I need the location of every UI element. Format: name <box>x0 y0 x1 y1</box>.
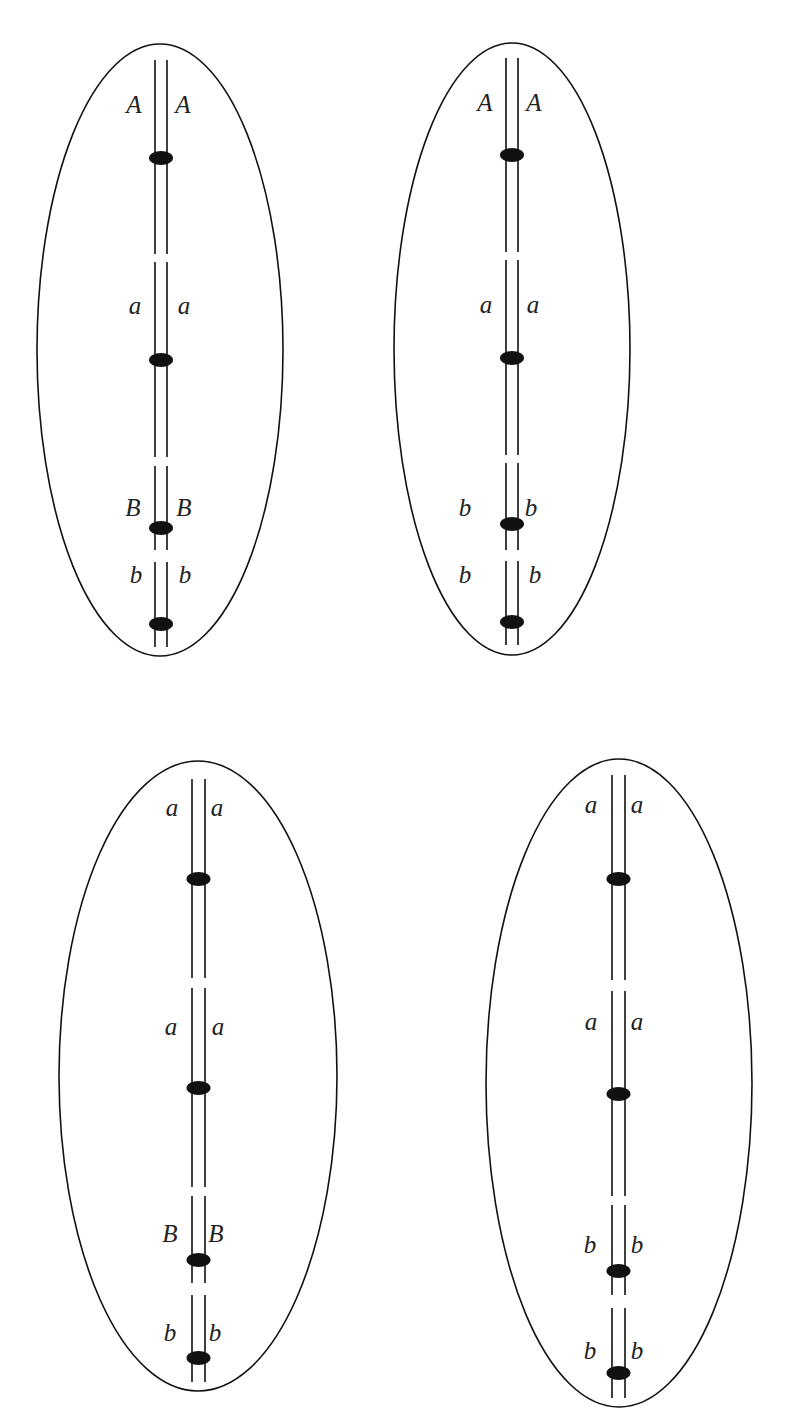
allele-label-left: b <box>584 1337 597 1364</box>
allele-label-right: A <box>524 89 542 116</box>
cell-membrane <box>37 44 283 656</box>
allele-label-right: b <box>529 561 542 588</box>
cell-membrane <box>59 761 337 1391</box>
allele-label-right: a <box>527 291 540 318</box>
allele-label-right: a <box>211 794 224 821</box>
allele-label-right: a <box>212 1013 225 1040</box>
centromere-dot <box>500 615 524 629</box>
allele-label-left: b <box>130 561 143 588</box>
allele-label-left: a <box>166 794 179 821</box>
centromere-dot <box>187 872 211 886</box>
allele-label-left: b <box>584 1231 597 1258</box>
allele-label-left: B <box>162 1220 177 1247</box>
allele-label-left: a <box>585 791 598 818</box>
centromere-dot <box>607 872 631 886</box>
cell-top-left: AAaaBBbb <box>37 44 283 656</box>
allele-label-right: A <box>173 91 191 118</box>
allele-label-left: B <box>125 494 140 521</box>
centromere-dot <box>187 1253 211 1267</box>
allele-label-right: a <box>631 791 644 818</box>
cell-membrane <box>486 759 752 1407</box>
centromere-dot <box>500 148 524 162</box>
centromere-dot <box>149 617 173 631</box>
allele-label-right: a <box>178 292 191 319</box>
centromere-dot <box>500 351 524 365</box>
allele-label-right: B <box>176 494 191 521</box>
cell-top-right: AAaabbbb <box>394 43 630 655</box>
centromere-dot <box>607 1264 631 1278</box>
allele-label-left: a <box>585 1008 598 1035</box>
allele-label-right: b <box>631 1337 644 1364</box>
allele-label-right: B <box>208 1220 223 1247</box>
allele-label-left: A <box>475 89 493 116</box>
centromere-dot <box>187 1081 211 1095</box>
centromere-dot <box>149 151 173 165</box>
centromere-dot <box>500 517 524 531</box>
cell-bottom-right: aaaabbbb <box>486 759 752 1407</box>
centromere-dot <box>149 353 173 367</box>
allele-label-left: a <box>480 291 493 318</box>
allele-label-left: b <box>459 494 472 521</box>
allele-label-left: a <box>165 1013 178 1040</box>
allele-label-right: a <box>631 1008 644 1035</box>
allele-label-left: A <box>124 91 142 118</box>
centromere-dot <box>187 1351 211 1365</box>
cell-bottom-left: aaaaBBbb <box>59 761 337 1391</box>
allele-label-left: b <box>459 561 472 588</box>
cell-membrane <box>394 43 630 655</box>
centromere-dot <box>607 1087 631 1101</box>
allele-label-left: b <box>164 1319 177 1346</box>
allele-label-right: b <box>631 1231 644 1258</box>
allele-label-right: b <box>525 494 538 521</box>
centromere-dot <box>607 1366 631 1380</box>
centromere-dot <box>149 521 173 535</box>
allele-label-right: b <box>209 1319 222 1346</box>
allele-label-left: a <box>129 292 142 319</box>
meiosis-chromosome-diagram: AAaaBBbbAAaabbbbaaaaBBbbaaaabbbb <box>0 0 785 1418</box>
allele-label-right: b <box>179 561 192 588</box>
